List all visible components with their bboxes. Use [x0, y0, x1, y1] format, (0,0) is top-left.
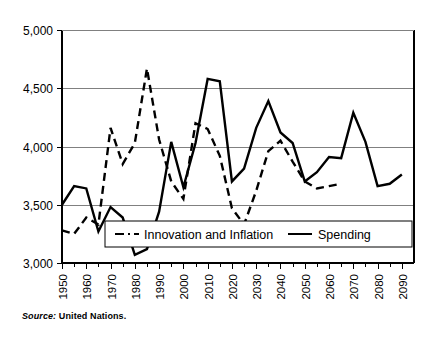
- y-tick-label: 3,000: [23, 257, 53, 271]
- chart-legend: Innovation and InflationSpending: [105, 221, 412, 247]
- x-tick-label: 2070: [348, 274, 360, 300]
- legend-entries: Innovation and InflationSpending: [115, 228, 371, 242]
- x-tick-label: 2050: [300, 274, 312, 300]
- source-label: Source:: [22, 311, 56, 321]
- legend-label: Innovation and Inflation: [144, 228, 273, 242]
- x-tick-label: 2010: [203, 274, 215, 300]
- x-axis-ticks: 1950196019701980199020002010202020302040…: [57, 263, 409, 300]
- x-tick-label: 2030: [251, 274, 263, 300]
- x-tick-label: 2090: [397, 274, 409, 300]
- x-tick-label: 2000: [178, 274, 190, 300]
- x-tick-label: 1980: [130, 274, 142, 300]
- y-tick-label: 4,000: [23, 141, 53, 155]
- x-tick-label: 2080: [373, 274, 385, 300]
- x-tick-label: 1960: [81, 274, 93, 300]
- x-tick-label: 2060: [324, 274, 336, 300]
- x-tick-label: 1950: [57, 274, 69, 300]
- x-tick-label: 2020: [227, 274, 239, 300]
- y-tick-label: 3,500: [23, 199, 53, 213]
- source-note: Source: United Nations.: [22, 311, 126, 321]
- chart-figure: 3,0003,5004,0004,5005,000 19501960197019…: [0, 0, 439, 340]
- x-tick-label: 1970: [106, 274, 118, 300]
- legend-label: Spending: [318, 228, 371, 242]
- x-tick-label: 1990: [154, 274, 166, 300]
- x-tick-label: 2040: [275, 274, 287, 300]
- line-chart: 3,0003,5004,0004,5005,000 19501960197019…: [0, 0, 439, 340]
- y-tick-label: 5,000: [23, 24, 53, 38]
- y-axis-ticks: 3,0003,5004,0004,5005,000: [23, 24, 62, 271]
- y-tick-label: 4,500: [23, 82, 53, 96]
- source-value: United Nations.: [59, 311, 127, 321]
